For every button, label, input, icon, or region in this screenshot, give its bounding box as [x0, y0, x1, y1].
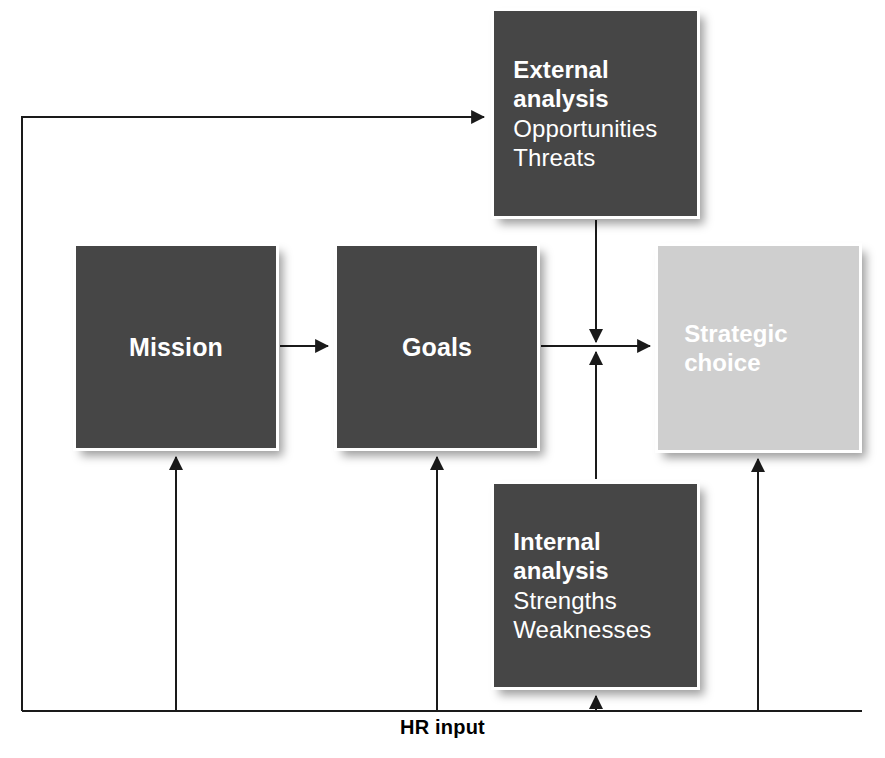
goals-label: Goals	[337, 332, 537, 363]
internal-analysis-line-2: analysis	[513, 556, 685, 585]
diagram-canvas: External analysis Opportunities Threats …	[0, 0, 885, 758]
strategic-choice-text: Strategic choice	[658, 319, 859, 378]
external-analysis-line-3: Opportunities	[513, 114, 685, 143]
mission-label: Mission	[76, 332, 276, 363]
hr-input-caption: HR input	[0, 716, 885, 739]
node-strategic-choice[interactable]: Strategic choice	[655, 243, 862, 453]
goals-text: Goals	[337, 332, 537, 363]
external-analysis-text: External analysis Opportunities Threats	[494, 55, 697, 172]
strategic-choice-line-1: Strategic	[684, 319, 847, 348]
internal-analysis-line-4: Weaknesses	[513, 615, 685, 644]
external-analysis-line-2: analysis	[513, 84, 685, 113]
internal-analysis-line-3: Strengths	[513, 586, 685, 615]
node-goals[interactable]: Goals	[334, 243, 540, 451]
external-analysis-line-1: External	[513, 55, 685, 84]
internal-analysis-line-1: Internal	[513, 527, 685, 556]
node-internal-analysis[interactable]: Internal analysis Strengths Weaknesses	[491, 481, 700, 690]
node-external-analysis[interactable]: External analysis Opportunities Threats	[491, 8, 700, 219]
node-mission[interactable]: Mission	[73, 243, 279, 451]
external-analysis-line-4: Threats	[513, 143, 685, 172]
mission-text: Mission	[76, 332, 276, 363]
strategic-choice-line-2: choice	[684, 348, 847, 377]
internal-analysis-text: Internal analysis Strengths Weaknesses	[494, 527, 697, 644]
